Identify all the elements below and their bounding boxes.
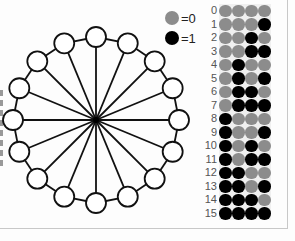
- table-cell: [219, 207, 232, 221]
- table-cell: [232, 153, 245, 167]
- black-dot-icon: [232, 72, 245, 85]
- legend-label-zero: =0: [181, 11, 196, 26]
- black-dot-icon: [232, 99, 245, 112]
- table-cell: [219, 31, 232, 45]
- gray-dot-icon: [258, 113, 271, 126]
- table-cell: [245, 18, 258, 32]
- black-dot-icon: [219, 207, 232, 220]
- table-cell: [232, 58, 245, 72]
- table-cell: [219, 153, 232, 167]
- row-label: 4: [200, 58, 217, 72]
- black-dot-icon: [258, 99, 271, 112]
- gray-dot-icon: [232, 5, 245, 18]
- gray-dot-icon: [219, 99, 232, 112]
- legend: =0 =1: [165, 10, 196, 50]
- spoke-edge: [96, 61, 155, 120]
- table-cell: [245, 85, 258, 99]
- legend-item-one: =1: [165, 30, 196, 46]
- row-label: 12: [200, 166, 217, 180]
- gray-dot-icon: [245, 5, 258, 18]
- black-dot-icon: [245, 86, 258, 99]
- gray-dot-icon: [258, 32, 271, 45]
- table-cell: [219, 4, 232, 18]
- gray-dot-icon: [219, 72, 232, 85]
- outer-node: [163, 78, 183, 98]
- row-label: 10: [200, 139, 217, 153]
- table-cell: [245, 58, 258, 72]
- table-cell: [232, 193, 245, 207]
- gray-dot-icon: [219, 86, 232, 99]
- black-dot-icon: [245, 153, 258, 166]
- table-cell: [232, 18, 245, 32]
- gray-dot-icon: [245, 167, 258, 180]
- table-cell: [219, 85, 232, 99]
- black-dot-icon: [165, 31, 179, 45]
- right-divider: [287, 0, 288, 228]
- row-label: 7: [200, 99, 217, 113]
- bottom-divider: [0, 228, 288, 229]
- row-label: 0: [200, 4, 217, 18]
- black-dot-icon: [245, 32, 258, 45]
- outer-node: [27, 169, 47, 189]
- black-dot-icon: [232, 180, 245, 193]
- black-dot-icon: [232, 194, 245, 207]
- gray-dot-icon: [258, 59, 271, 72]
- gray-dot-icon: [219, 45, 232, 58]
- table-cell: [258, 99, 271, 113]
- table-cell: [258, 139, 271, 153]
- table-cell: [245, 180, 258, 194]
- row-label: 3: [200, 45, 217, 59]
- table-cell: [258, 180, 271, 194]
- gray-dot-icon: [165, 11, 179, 25]
- table-cell: [258, 45, 271, 59]
- row-label: 2: [200, 31, 217, 45]
- outer-node: [163, 142, 183, 162]
- outer-node: [9, 142, 29, 162]
- table-cell: [232, 31, 245, 45]
- table-cell: [258, 153, 271, 167]
- gray-dot-icon: [258, 140, 271, 153]
- table-cell: [219, 139, 232, 153]
- row-label: 1: [200, 18, 217, 32]
- black-dot-icon: [219, 113, 232, 126]
- table-cell: [219, 72, 232, 86]
- gray-dot-icon: [258, 194, 271, 207]
- table-cell: [245, 4, 258, 18]
- table-cell: [258, 193, 271, 207]
- gray-dot-icon: [245, 180, 258, 193]
- outer-node: [145, 51, 165, 71]
- table-cell: [219, 166, 232, 180]
- black-dot-icon: [245, 194, 258, 207]
- row-label: 5: [200, 72, 217, 86]
- gray-dot-icon: [258, 86, 271, 99]
- table-cell: [258, 166, 271, 180]
- outer-node: [145, 169, 165, 189]
- gray-dot-icon: [245, 18, 258, 31]
- gray-dot-icon: [232, 32, 245, 45]
- table-cell: [258, 72, 271, 86]
- table-cell: [245, 166, 258, 180]
- black-dot-icon: [232, 86, 245, 99]
- black-dot-icon: [219, 167, 232, 180]
- legend-label-one: =1: [181, 31, 196, 46]
- outer-node: [9, 78, 29, 98]
- black-dot-icon: [219, 180, 232, 193]
- gray-dot-icon: [245, 72, 258, 85]
- table-cell: [258, 207, 271, 221]
- hub-node: [93, 117, 99, 123]
- table-cell: [219, 99, 232, 113]
- outer-node: [118, 187, 138, 207]
- black-dot-icon: [219, 140, 232, 153]
- table-cell: [219, 180, 232, 194]
- black-dot-icon: [219, 194, 232, 207]
- table-cell: [232, 85, 245, 99]
- black-dot-icon: [232, 207, 245, 220]
- row-label: 14: [200, 193, 217, 207]
- table-cell: [219, 112, 232, 126]
- gray-dot-icon: [232, 18, 245, 31]
- black-dot-icon: [245, 99, 258, 112]
- table-cell: [245, 72, 258, 86]
- table-cell: [232, 166, 245, 180]
- outer-node: [169, 110, 189, 130]
- row-label: 6: [200, 85, 217, 99]
